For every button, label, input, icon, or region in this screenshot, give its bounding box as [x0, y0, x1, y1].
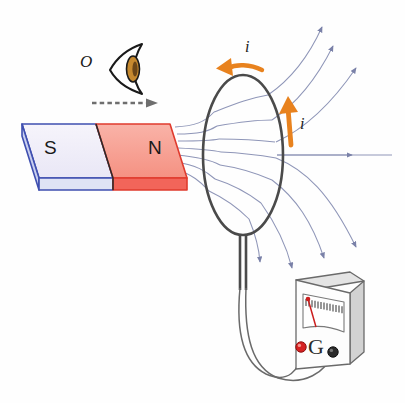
eye-icon: [110, 44, 142, 94]
south-pole-label: S: [44, 137, 57, 159]
north-pole-label: N: [148, 137, 162, 159]
galvanometer[interactable]: [296, 272, 364, 369]
terminal-negative: [328, 347, 338, 357]
current-arrow-top: [216, 58, 262, 76]
observer-label: O: [80, 52, 92, 72]
current-label-top: i: [245, 38, 249, 56]
current-label-right: i: [300, 115, 304, 133]
figure-canvas: O S N i i G: [0, 0, 405, 403]
induction-diagram: [0, 0, 405, 403]
motion-direction-arrow: [92, 98, 158, 107]
terminal-positive: [296, 342, 306, 352]
wire-loop: [203, 75, 283, 290]
galvanometer-label: G: [308, 334, 324, 360]
